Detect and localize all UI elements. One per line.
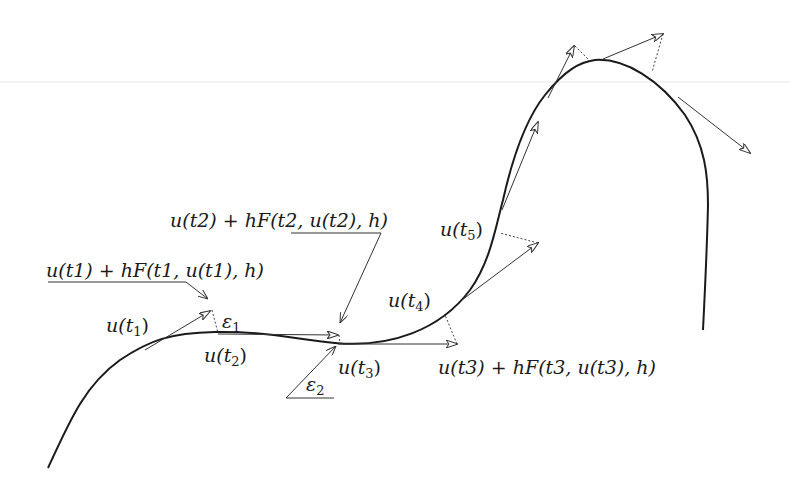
label-u-t3-close: )	[374, 356, 381, 378]
label-u-t3: u(t3)	[338, 358, 381, 380]
label-u-t5: u(t5)	[440, 220, 483, 242]
step7-arrow	[603, 34, 663, 59]
label-u-t1-base: u(t	[106, 314, 133, 336]
diagram-canvas: u(t1) ε1 u(t2) u(t3) ε2 u(t4) u(t5) u(t1…	[0, 0, 790, 492]
label-eps2-base: ε	[306, 373, 316, 395]
label-u-t1-close: )	[142, 314, 149, 336]
step3-formula-text: u(t3) + hF(t3, u(t3), h)	[438, 356, 656, 378]
label-u-t2-sub: 2	[231, 354, 239, 369]
label-step1-formula: u(t1) + hF(t1, u(t1), h)	[46, 261, 264, 280]
eps7-error-line	[652, 34, 663, 72]
label-u-t4-base: u(t	[388, 289, 415, 311]
step1-arrow	[145, 311, 210, 350]
eps4-error-line	[500, 233, 538, 243]
eps1-error-line	[212, 310, 218, 333]
label-u-t2-base: u(t	[204, 344, 231, 366]
step4-arrow	[462, 243, 538, 300]
label-eps2: ε2	[306, 375, 324, 397]
label-u-t5-base: u(t	[440, 218, 467, 240]
label-eps1-base: ε	[222, 310, 232, 332]
label-u-t5-close: )	[476, 218, 483, 240]
step8-arrow	[678, 97, 750, 153]
step6-arrow	[548, 46, 574, 98]
label-u-t3-sub: 3	[365, 366, 373, 381]
label-eps1-sub: 1	[232, 320, 240, 335]
label-eps2-sub: 2	[316, 383, 324, 398]
label-u-t2-close: )	[240, 344, 247, 366]
label-u-t4-close: )	[424, 289, 431, 311]
label-eps1: ε1	[222, 312, 240, 334]
diagram-svg	[0, 0, 790, 492]
label-u-t2: u(t2)	[204, 346, 247, 368]
eps6-error-line	[575, 46, 590, 61]
label-u-t4: u(t4)	[388, 291, 431, 313]
eps3-error-line	[445, 315, 457, 344]
label-u-t3-base: u(t	[338, 356, 365, 378]
label-step3-formula: u(t3) + hF(t3, u(t3), h)	[438, 358, 656, 377]
label-u-t1: u(t1)	[106, 316, 149, 338]
step1-leader	[186, 282, 208, 299]
label-u-t5-sub: 5	[467, 228, 475, 243]
label-u-t4-sub: 4	[415, 299, 423, 314]
step1-formula-text: u(t1) + hF(t1, u(t1), h)	[46, 259, 264, 281]
step2-leader	[340, 233, 381, 323]
step2-formula-text: u(t2) + hF(t2, u(t2), h)	[170, 209, 388, 231]
label-step2-formula: u(t2) + hF(t2, u(t2), h)	[170, 211, 388, 230]
step5-arrow	[502, 122, 538, 210]
label-u-t1-sub: 1	[133, 324, 141, 339]
